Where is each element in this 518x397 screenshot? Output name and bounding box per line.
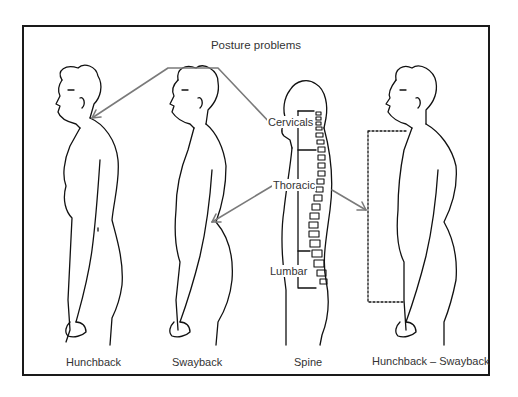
diagram-frame: Posture problems — [22, 25, 490, 376]
caption-swayback: Swayback — [172, 356, 222, 368]
caption-hunchback-swayback: Hunchback – Swayback — [372, 355, 489, 367]
label-cervicals: Cervicals — [267, 116, 314, 128]
caption-spine: Spine — [294, 356, 322, 368]
caption-hunchback: Hunchback — [66, 356, 121, 368]
label-thoracic: Thoracic — [272, 179, 316, 191]
label-lumbar: Lumbar — [269, 265, 308, 277]
diagram-title: Posture problems — [24, 39, 488, 51]
